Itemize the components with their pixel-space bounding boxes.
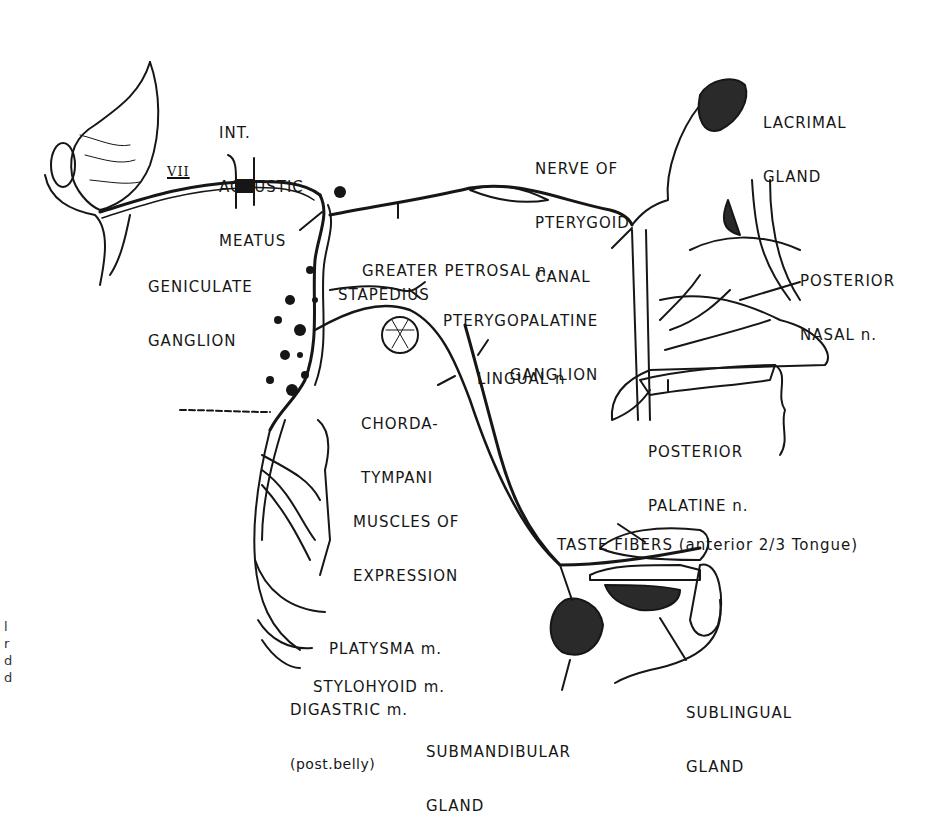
label-int-acoustic-meatus: INT. ACOUSTIC MEATUS <box>219 88 304 268</box>
label-lingual-nerve: LINGUAL n <box>477 334 566 406</box>
label-digastric: DIGASTRIC m. (post.belly) <box>290 665 408 791</box>
lacrimal-gland-shape <box>699 79 747 131</box>
sublingual-gland-shape <box>605 585 680 610</box>
label-sublingual-gland: SUBLINGUAL GLAND <box>686 668 792 794</box>
clipped-edge-text: l r d d <box>4 618 12 686</box>
label-muscles-of-expression: MUSCLES OF EXPRESSION <box>353 477 459 603</box>
nerve-vii-label: VII <box>167 164 190 179</box>
label-stapedius: STAPEDIUS <box>338 250 430 322</box>
label-posterior-nasal: POSTERIOR NASAL n. <box>800 236 895 362</box>
label-taste-fibers: TASTE FIBERS (anterior 2/3 Tongue) <box>557 500 858 572</box>
submandibular-gland-shape <box>551 599 603 655</box>
label-geniculate-ganglion: GENICULATE GANGLION <box>148 242 253 368</box>
label-submandibular-gland: SUBMANDIBULAR GLAND <box>426 707 571 815</box>
label-lacrimal-gland: LACRIMAL GLAND <box>763 78 847 204</box>
brainstem-drawing <box>45 62 158 285</box>
